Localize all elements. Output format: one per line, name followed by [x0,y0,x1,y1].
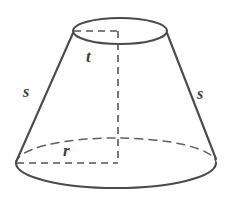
label-bottom-radius-r: r [63,142,70,159]
frustum-drawing [0,0,230,204]
label-top-radius-t: t [86,48,91,65]
bottom-ellipse-front-arc [16,163,216,188]
label-slant-right-s: s [197,86,203,102]
frustum-figure: t s s r [0,0,230,204]
label-slant-left-s: s [23,84,29,100]
right-slant-edge [167,33,216,159]
bottom-ellipse-back-arc [16,138,216,163]
